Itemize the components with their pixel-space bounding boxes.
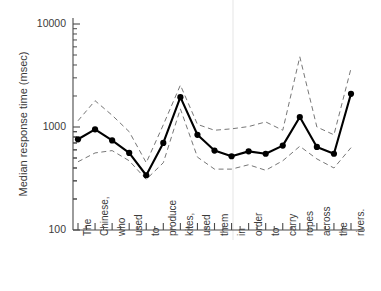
data-point xyxy=(143,172,149,178)
data-point xyxy=(331,151,337,157)
data-point xyxy=(211,148,217,154)
data-point xyxy=(263,151,269,157)
data-point xyxy=(297,114,303,120)
chart-figure: Median response time (msec) 100001000100… xyxy=(0,0,381,291)
data-point xyxy=(194,132,200,138)
plot-area xyxy=(0,0,381,291)
data-point xyxy=(246,148,252,154)
data-point xyxy=(348,91,354,97)
series-upper-quartile xyxy=(78,57,351,163)
data-point xyxy=(75,136,81,142)
data-point xyxy=(160,140,166,146)
series-median-line xyxy=(78,94,351,175)
data-point xyxy=(177,94,183,100)
data-point xyxy=(109,137,115,143)
series-lower-quartile xyxy=(78,109,351,180)
data-point xyxy=(126,150,132,156)
data-point xyxy=(314,144,320,150)
data-point xyxy=(228,153,234,159)
data-point xyxy=(92,126,98,132)
data-point xyxy=(280,142,286,148)
